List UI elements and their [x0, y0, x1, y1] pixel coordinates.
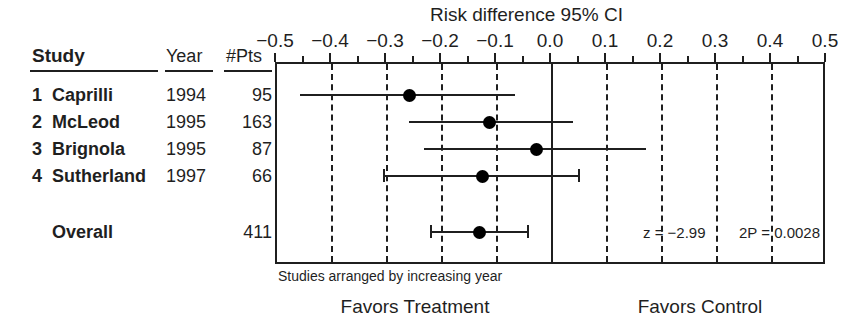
- study-row-name: Brignola: [52, 139, 125, 160]
- study-row-name: Caprilli: [52, 85, 113, 106]
- axis-tick-label: 0.2: [647, 30, 673, 52]
- axis-tick-label: 0.3: [702, 30, 728, 52]
- study-confidence-interval-cap-high: [578, 169, 580, 182]
- axis-tick-major: [274, 53, 276, 62]
- study-row-index: 4: [32, 166, 42, 187]
- axis-tick-major: [604, 53, 606, 62]
- study-row-name: Sutherland: [52, 166, 146, 187]
- study-confidence-interval-cap-low: [383, 169, 385, 182]
- plot-area: z = −2.99 2P = 0.0028: [275, 62, 825, 264]
- axis-tick-label: 0.0: [537, 30, 563, 52]
- overall-row-label: Overall: [52, 222, 113, 243]
- axis-tick-major: [659, 53, 661, 62]
- footnote-text: Studies arranged by increasing year: [278, 268, 502, 284]
- axis-tick-label: 0.1: [592, 30, 618, 52]
- overall-confidence-interval-point-estimate: [473, 226, 486, 239]
- axis-tick-major: [494, 53, 496, 62]
- axis-tick-label: 0.5: [812, 30, 838, 52]
- study-row-pts: 87: [226, 139, 272, 160]
- gridline: [606, 64, 608, 262]
- study-confidence-interval-point-estimate: [476, 170, 489, 183]
- header-rule-pts: [224, 70, 272, 72]
- axis-tick-label: 0.4: [757, 30, 783, 52]
- study-confidence-interval-point-estimate: [483, 116, 496, 129]
- favors-control-label: Favors Control: [638, 296, 763, 318]
- axis-tick-major: [714, 53, 716, 62]
- column-header-study: Study: [32, 45, 85, 67]
- study-confidence-interval-point-estimate: [403, 89, 416, 102]
- header-rule-study: [30, 70, 158, 72]
- overall-confidence-interval-cap-high: [527, 225, 529, 238]
- study-row-index: 1: [32, 85, 42, 106]
- favors-treatment-label: Favors Treatment: [341, 296, 490, 318]
- axis-tick-label: −0.4: [311, 30, 349, 52]
- study-row-pts: 95: [226, 85, 272, 106]
- axis-tick-label: −0.5: [256, 30, 294, 52]
- study-row-index: 2: [32, 112, 42, 133]
- axis-tick-label: −0.2: [421, 30, 459, 52]
- axis-tick-label: −0.3: [366, 30, 404, 52]
- study-row-index: 3: [32, 139, 42, 160]
- overall-confidence-interval-cap-low: [430, 225, 432, 238]
- study-row-name: McLeod: [52, 112, 120, 133]
- study-row-year: 1994: [166, 85, 206, 106]
- axis-tick-major: [384, 53, 386, 62]
- study-row-year: 1995: [166, 112, 206, 133]
- column-header-year: Year: [166, 46, 202, 67]
- study-row-pts: 163: [226, 112, 272, 133]
- study-confidence-interval-point-estimate: [530, 143, 543, 156]
- study-row-pts: 66: [226, 166, 272, 187]
- header-rule-year: [165, 70, 213, 72]
- forest-plot-figure: Risk difference 95% CI Study Year #Pts −…: [0, 0, 858, 331]
- chart-title: Risk difference 95% CI: [430, 4, 623, 26]
- study-row-year: 1997: [166, 166, 206, 187]
- axis-tick-major: [439, 53, 441, 62]
- gridline: [716, 64, 718, 262]
- null-effect-line: [551, 64, 553, 262]
- axis-tick-major: [769, 53, 771, 62]
- axis-tick-major: [824, 53, 826, 62]
- overall-row-pts: 411: [226, 222, 272, 243]
- axis-tick-label: −0.1: [476, 30, 514, 52]
- axis-tick-major: [549, 53, 551, 62]
- study-row-year: 1995: [166, 139, 206, 160]
- axis-tick-major: [329, 53, 331, 62]
- stat-p-value: 2P = 0.0028: [739, 224, 820, 241]
- stat-z-value: z = −2.99: [643, 224, 706, 241]
